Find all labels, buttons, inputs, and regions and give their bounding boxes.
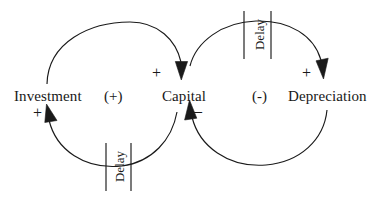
loop-label-balancing: (-)	[252, 89, 267, 104]
node-label-investment: Investment	[14, 89, 82, 104]
node-label-depreciation: Depreciation	[288, 89, 367, 104]
causal-loop-diagram: Investment Capital Depreciation (+) (-) …	[0, 0, 387, 204]
link-depreciation-to-capital	[185, 100, 327, 165]
polarity-investment-to-capital: +	[152, 65, 161, 81]
polarity-capital-to-investment: +	[33, 105, 42, 121]
polarity-depreciation-to-capital: –	[194, 103, 202, 119]
arc-depreciation-to-capital	[192, 110, 327, 165]
arrowhead-into-depreciation	[316, 58, 328, 79]
link-investment-to-capital	[47, 22, 188, 84]
delay-label-top: Delay	[253, 15, 266, 55]
arrowhead-into-capital-top	[175, 62, 187, 81]
delay-label-bottom: Delay	[113, 147, 126, 187]
arrowhead-into-investment	[45, 104, 57, 123]
polarity-capital-to-depreciation: +	[302, 65, 311, 81]
loop-label-reinforcing: (+)	[104, 89, 122, 104]
